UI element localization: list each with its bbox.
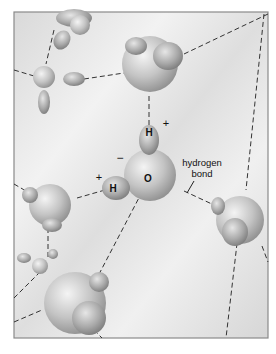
- negative-charge: −: [116, 151, 123, 165]
- water-molecule-bottom: [44, 272, 109, 335]
- positive-charge-left: +: [96, 171, 102, 183]
- water-hydrogen-bond-diagram: H H O + + − hydrogen bond: [0, 0, 276, 354]
- hydrogen-atom-top-label: H: [145, 127, 152, 138]
- positive-charge-top: +: [163, 117, 169, 129]
- hydrogen-bond-label-line1: hydrogen: [182, 157, 222, 168]
- oxygen-atom-label: O: [144, 173, 152, 184]
- hydrogen-bond-label-line2: bond: [191, 168, 212, 179]
- hydrogen-atom-left-label: H: [109, 183, 116, 194]
